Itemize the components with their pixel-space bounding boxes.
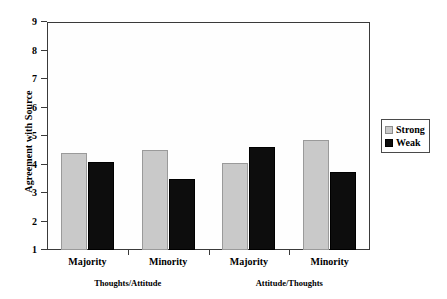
y-tick-label: 1 (0, 242, 37, 257)
legend-label-strong: Strong (396, 124, 425, 135)
x-axis-tick (209, 250, 210, 255)
x-axis-group-label: Attitude/Thoughts (219, 278, 359, 288)
x-axis-tick (289, 250, 290, 255)
legend-item: Weak (385, 136, 425, 149)
x-axis-label: Minority (128, 256, 208, 267)
legend-swatch-strong-icon (385, 126, 393, 134)
x-axis-label: Minority (290, 256, 370, 267)
legend-swatch-weak-icon (385, 139, 393, 147)
legend-item: Strong (385, 123, 425, 136)
y-tick-label: 5 (0, 128, 37, 143)
bar-weak (169, 179, 195, 250)
bar-weak (330, 172, 356, 250)
legend-label-weak: Weak (396, 137, 420, 148)
y-tick-label: 9 (0, 14, 37, 29)
bars-layer (47, 22, 370, 250)
bar-chart: Agreement with Source 123456789 Majority… (0, 0, 447, 299)
bar-weak (249, 147, 275, 250)
bar-weak (88, 162, 114, 250)
y-tick-label: 3 (0, 185, 37, 200)
y-tick-label: 8 (0, 43, 37, 58)
y-tick-label: 7 (0, 71, 37, 86)
y-tick-label: 6 (0, 100, 37, 115)
bar-strong (142, 150, 168, 250)
x-axis-group-label: Thoughts/Attitude (58, 278, 198, 288)
y-tick-label: 4 (0, 157, 37, 172)
bar-strong (303, 140, 329, 250)
bar-strong (61, 153, 87, 250)
legend: Strong Weak (381, 119, 430, 153)
y-tick-label: 2 (0, 214, 37, 229)
x-axis-tick (128, 250, 129, 255)
x-axis-label: Majority (209, 256, 289, 267)
x-axis-label: Majority (47, 256, 127, 267)
bar-strong (222, 163, 248, 250)
